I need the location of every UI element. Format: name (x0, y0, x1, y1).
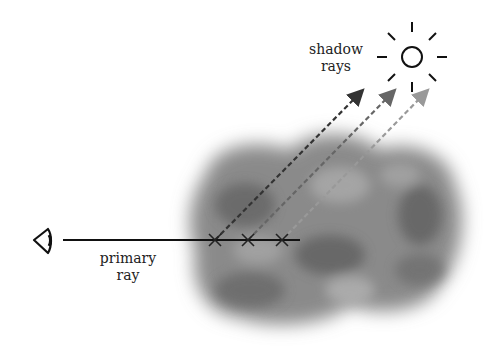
cloud-medium (190, 134, 462, 324)
primary-ray-label-line2: ray (88, 267, 168, 284)
sun-icon (377, 22, 447, 92)
shadow-rays-label: shadow rays (300, 41, 372, 75)
shadow-rays-label-line1: shadow (300, 41, 372, 58)
primary-ray-label: primary ray (88, 250, 168, 284)
primary-ray-label-line1: primary (88, 250, 168, 267)
shadow-rays-label-line2: rays (300, 58, 372, 75)
eye-icon (34, 229, 51, 253)
diagram: shadow rays primary ray (0, 0, 484, 354)
